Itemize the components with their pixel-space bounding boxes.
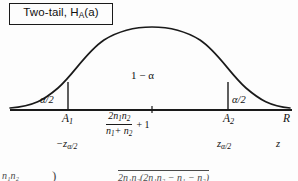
z-axis-label: z [276, 139, 280, 150]
positive-z-critical-label: zα/2 [217, 139, 231, 151]
right-tail-alpha-label: α/2 [232, 95, 246, 106]
runs-axis-label: R [283, 113, 290, 125]
distribution-plot [0, 0, 298, 181]
formula-suffix: + 1 [136, 119, 149, 130]
formula-numerator: 2n1n2 [106, 110, 132, 125]
fragment-radicand: 2n₁n₂(2n₁n₂ − n₁ − n₂) [118, 170, 209, 181]
left-critical-value-label: A1 [62, 113, 73, 127]
right-critical-value-label: A2 [223, 113, 234, 127]
expected-runs-formula: 2n1n2 n1+ n2 + 1 [104, 110, 150, 138]
expected-runs-fraction: 2n1n2 n1+ n2 [104, 110, 134, 138]
figure-canvas: Two-tail, HA(a) α/2 α/2 1 − α A1 A2 R 2n… [0, 0, 298, 181]
clipped-formula-fragment: n₁n₂ ) 2n₁n₂(2n₁n₂ − n₁ − n₂) [0, 170, 298, 181]
fragment-left-term: n₁n₂ [2, 170, 19, 181]
formula-denominator: n1+ n2 [104, 125, 134, 139]
fragment-paren: ) [52, 170, 56, 181]
acceptance-region-label: 1 − α [131, 70, 154, 81]
left-tail-alpha-label: α/2 [40, 95, 54, 106]
negative-z-critical-label: −zα/2 [56, 139, 77, 151]
